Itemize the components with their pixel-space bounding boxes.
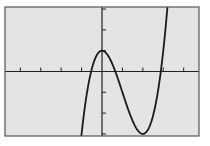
- function-plot: [0, 0, 210, 146]
- graph-screen: [0, 0, 210, 146]
